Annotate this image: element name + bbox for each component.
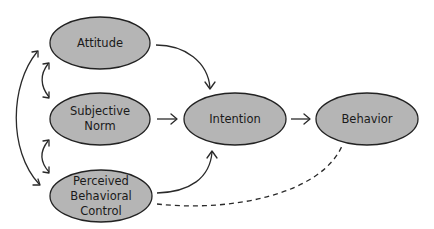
edge-intention-to-behavior <box>291 114 310 124</box>
edge-pbc-to-behavior-dashed <box>157 146 342 206</box>
node-subjective-norm-label-line2: Norm <box>84 119 115 133</box>
node-attitude: Attitude <box>50 17 150 69</box>
node-behavior-label: Behavior <box>341 112 392 126</box>
edge-attitude-subjective-norm-correlation <box>42 63 49 98</box>
edge-subjective-norm-to-intention <box>157 114 177 124</box>
node-attitude-label: Attitude <box>77 36 123 50</box>
node-intention-label: Intention <box>209 112 261 126</box>
node-behavior: Behavior <box>316 93 418 145</box>
tpb-diagram: Attitude Subjective Norm Perceived Behav… <box>0 0 434 229</box>
node-pbc-label-line1: Perceived <box>73 174 129 188</box>
edge-attitude-to-intention <box>156 45 215 89</box>
node-pbc-label-line2: Behavioral <box>70 189 131 203</box>
node-perceived-behavioral-control: Perceived Behavioral Control <box>50 170 152 222</box>
node-subjective-norm: Subjective Norm <box>50 93 150 145</box>
edge-pbc-to-intention <box>157 151 217 193</box>
edge-subjective-norm-pbc-correlation <box>42 140 49 173</box>
node-pbc-label-line3: Control <box>80 204 122 218</box>
node-subjective-norm-label-line1: Subjective <box>70 104 130 118</box>
edge-attitude-pbc-correlation <box>16 51 40 185</box>
node-intention: Intention <box>184 93 286 145</box>
